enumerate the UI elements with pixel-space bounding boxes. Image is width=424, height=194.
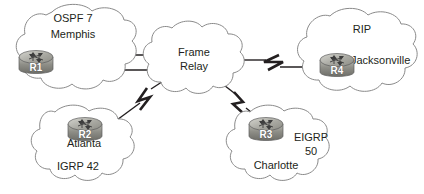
cloud-charlotte-protocol-label: EIGRP <box>294 131 328 143</box>
serial-bolt-icon <box>138 88 150 110</box>
cloud-charlotte: EIGRP 50 Charlotte <box>226 105 329 180</box>
router-r3[interactable]: R3 <box>249 118 283 141</box>
router-r1-label: R1 <box>30 62 43 73</box>
router-r3-label: R3 <box>260 129 273 140</box>
cloud-frame-relay: Frame Relay <box>143 21 244 93</box>
cloud-jacksonville-site-label: Jacksonville <box>351 54 410 66</box>
router-r2[interactable]: R2 <box>68 118 102 141</box>
cloud-memphis: OSPF 7 Memphis <box>16 4 136 89</box>
cloud-atlanta-protocol-label: IGRP 42 <box>57 160 99 172</box>
cloud-charlotte-asn-label: 50 <box>305 145 317 157</box>
cloud-memphis-protocol-label: OSPF 7 <box>53 12 92 24</box>
router-r4[interactable]: R4 <box>320 54 354 77</box>
router-r4-label: R4 <box>331 65 344 76</box>
cloud-charlotte-site-label: Charlotte <box>254 159 299 171</box>
router-r1[interactable]: R1 <box>19 51 53 74</box>
cloud-frame-relay-label-line2: Relay <box>180 60 209 72</box>
network-topology-diagram: OSPF 7 Memphis Frame Relay RIP Jacksonvi… <box>0 0 424 194</box>
cloud-atlanta: Atlanta IGRP 42 <box>31 105 134 180</box>
router-r2-label: R2 <box>79 129 92 140</box>
serial-bolt-icon <box>264 55 283 70</box>
serial-bolt-icon <box>233 92 244 114</box>
cloud-jacksonville: RIP Jacksonville <box>298 8 418 91</box>
cloud-memphis-site-label: Memphis <box>51 28 96 40</box>
cloud-jacksonville-protocol-label: RIP <box>353 23 371 35</box>
cloud-frame-relay-label-line1: Frame <box>178 46 210 58</box>
topology-canvas: OSPF 7 Memphis Frame Relay RIP Jacksonvi… <box>0 0 424 194</box>
